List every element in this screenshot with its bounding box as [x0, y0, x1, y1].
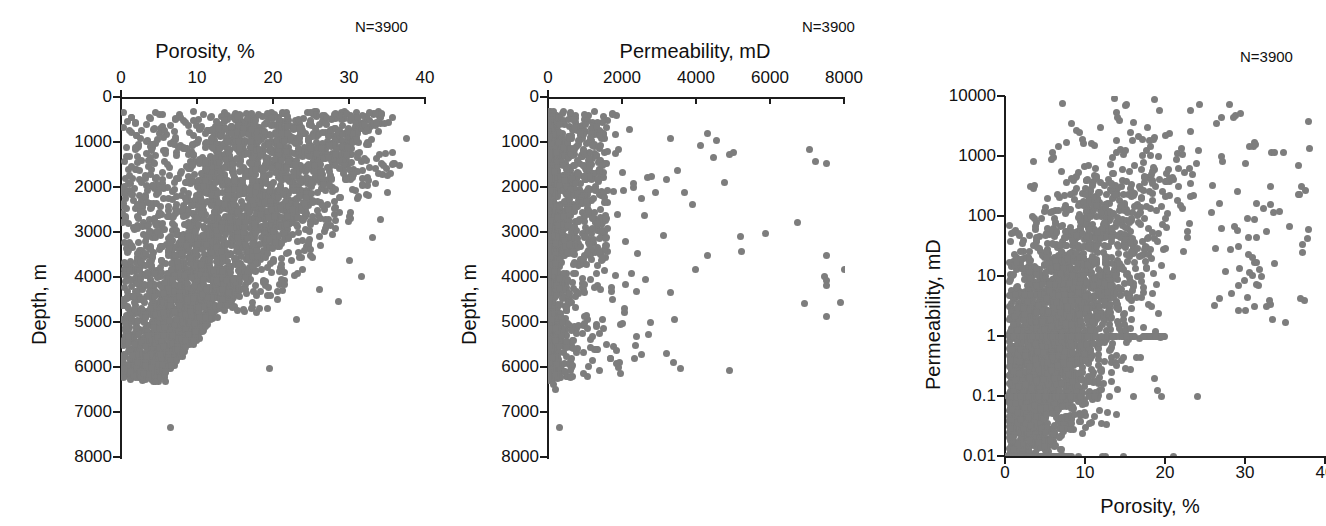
data-point — [1096, 340, 1103, 347]
data-point — [1035, 393, 1042, 400]
data-point — [1085, 244, 1092, 251]
data-point — [152, 220, 159, 227]
data-point — [203, 286, 210, 293]
data-point — [358, 273, 365, 280]
left-n-label: N=3900 — [355, 18, 408, 35]
data-point — [355, 193, 362, 200]
data-point — [1151, 375, 1158, 382]
middle-ytick-mark-7 — [540, 411, 548, 413]
data-point — [615, 146, 622, 153]
data-point — [1042, 393, 1049, 400]
data-point — [1068, 405, 1075, 412]
data-point — [1194, 393, 1201, 400]
data-point — [279, 287, 286, 294]
data-point — [697, 142, 704, 149]
data-point — [1299, 249, 1306, 256]
left-xtick-1: 10 — [188, 68, 207, 88]
data-point — [230, 276, 237, 283]
data-point — [601, 267, 608, 274]
data-point — [146, 228, 153, 235]
data-point — [1048, 323, 1055, 330]
data-point — [1127, 239, 1134, 246]
data-point — [1096, 325, 1103, 332]
data-point — [599, 162, 606, 169]
data-point — [1184, 228, 1191, 235]
data-point — [586, 155, 593, 162]
data-point — [667, 289, 674, 296]
data-point — [1034, 348, 1041, 355]
data-point — [309, 254, 316, 261]
data-point — [1260, 205, 1267, 212]
data-point — [141, 281, 148, 288]
right-ytick-mark-3 — [997, 275, 1005, 277]
data-point — [214, 190, 221, 197]
data-point — [600, 325, 607, 332]
data-point — [564, 249, 571, 256]
data-point — [597, 142, 604, 149]
data-point — [553, 149, 560, 156]
data-point — [823, 252, 830, 259]
data-point — [1058, 414, 1065, 421]
data-point — [228, 130, 235, 137]
right-xtick-mark-3 — [1244, 456, 1246, 464]
data-point — [585, 363, 592, 370]
data-point — [1122, 147, 1129, 154]
data-point — [1048, 367, 1055, 374]
data-point — [1286, 223, 1293, 230]
data-point — [556, 129, 563, 136]
data-point — [179, 349, 186, 356]
data-point — [377, 216, 384, 223]
data-point — [1137, 354, 1144, 361]
data-point — [1099, 453, 1106, 457]
data-point — [343, 176, 350, 183]
data-point — [1169, 273, 1176, 280]
data-point — [602, 235, 609, 242]
data-point — [1107, 161, 1114, 168]
data-point — [1108, 180, 1115, 187]
data-point — [329, 231, 336, 238]
data-point — [1091, 393, 1098, 400]
data-point — [1095, 288, 1102, 295]
data-point — [160, 343, 167, 350]
data-point — [332, 225, 339, 232]
data-point — [181, 145, 188, 152]
right-x-axis-label: Porosity, % — [1100, 495, 1200, 518]
right-y-axis-label: Permeability, mD — [922, 239, 945, 390]
middle-ytick-1: 1000 — [495, 132, 539, 152]
data-point — [203, 166, 210, 173]
data-point — [1123, 101, 1130, 108]
data-point — [1056, 345, 1063, 352]
data-point — [633, 333, 640, 340]
data-point — [337, 194, 344, 201]
data-point — [1010, 333, 1017, 340]
data-point — [1009, 434, 1016, 441]
data-point — [295, 116, 302, 123]
data-point — [180, 187, 187, 194]
data-point — [1251, 216, 1258, 223]
data-point — [1017, 393, 1024, 400]
data-point — [283, 164, 290, 171]
data-point — [1134, 245, 1141, 252]
data-point — [266, 187, 273, 194]
data-point — [1065, 371, 1072, 378]
data-point — [174, 258, 181, 265]
data-point — [1019, 240, 1026, 247]
data-point — [290, 168, 297, 175]
data-point — [171, 179, 178, 186]
data-point — [1236, 265, 1243, 272]
data-point — [1136, 253, 1143, 260]
data-point — [1089, 182, 1096, 189]
data-point — [566, 241, 573, 248]
right-ytick-mark-4 — [997, 335, 1005, 337]
data-point — [289, 206, 296, 213]
data-point — [271, 213, 278, 220]
data-point — [1075, 453, 1082, 457]
data-point — [195, 136, 202, 143]
data-point — [1091, 142, 1098, 149]
data-point — [1120, 311, 1127, 318]
data-point — [622, 238, 629, 245]
data-point — [173, 152, 180, 159]
data-point — [138, 127, 145, 134]
data-point — [548, 343, 553, 350]
data-point — [1130, 393, 1137, 400]
